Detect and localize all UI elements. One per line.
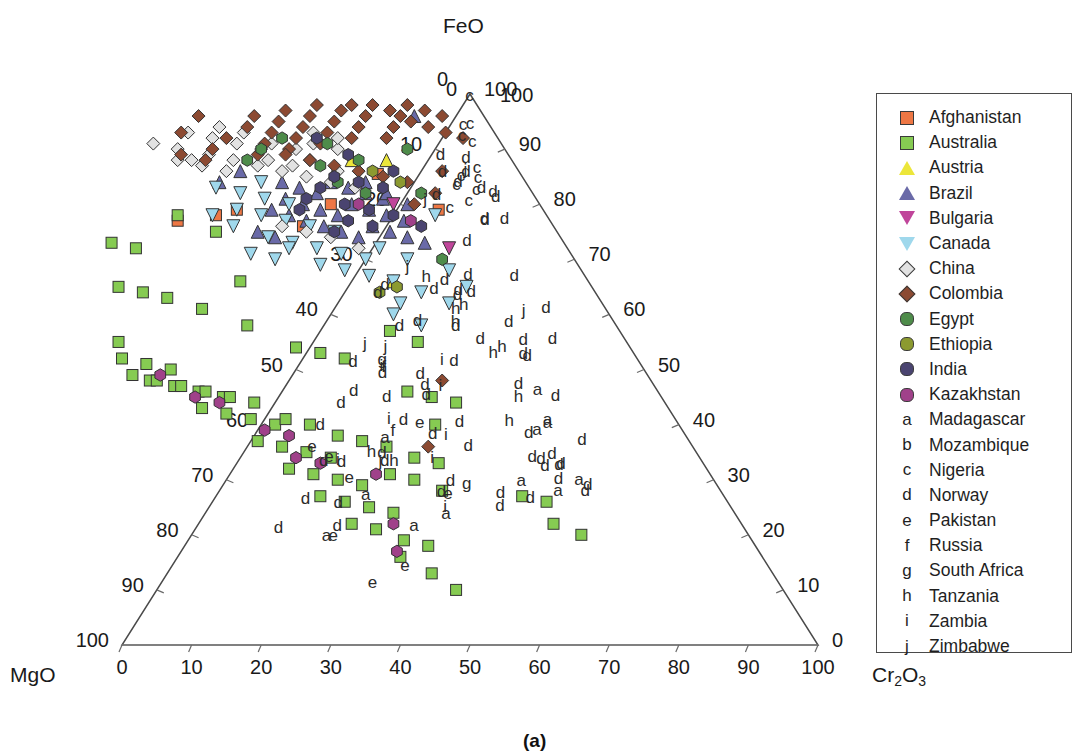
- letter-marker-d: d: [536, 449, 545, 468]
- point-square: [346, 518, 357, 529]
- letter-marker-j: j: [362, 334, 367, 353]
- legend-letter-code: e: [885, 511, 929, 531]
- point-diamond: [422, 121, 435, 134]
- bottom-tick-label: 60: [528, 656, 550, 678]
- legend-item-zimbabwe[interactable]: jZimbabwe: [877, 634, 1071, 659]
- letter-marker-h: h: [451, 312, 460, 331]
- legend-item-china[interactable]: China: [877, 256, 1071, 281]
- right-axis-label-cr: Cr: [872, 663, 894, 686]
- letter-marker-d: d: [382, 387, 391, 406]
- letter-marker-i: i: [380, 356, 384, 375]
- point-triangle-up: [293, 181, 306, 194]
- legend-item-south-africa[interactable]: gSouth Africa: [877, 558, 1071, 583]
- letter-marker-j: j: [405, 257, 410, 276]
- letter-marker-i: i: [439, 376, 443, 395]
- letter-marker-c: c: [466, 114, 475, 133]
- point-hexagon: [395, 176, 406, 188]
- point-triangle-up: [380, 154, 393, 167]
- point-square: [315, 347, 326, 358]
- point-hexagon: [256, 143, 267, 155]
- legend-item-egypt[interactable]: Egypt: [877, 307, 1071, 332]
- right-tick-label: 20: [762, 519, 784, 541]
- point-square: [270, 419, 281, 430]
- legend-marker-square: [900, 136, 914, 150]
- bottom-tick: [745, 645, 748, 652]
- legend-item-bulgaria[interactable]: Bulgaria: [877, 206, 1071, 231]
- letter-marker-c: c: [465, 86, 474, 105]
- legend-item-pakistan[interactable]: ePakistan: [877, 508, 1071, 533]
- legend-item-colombia[interactable]: Colombia: [877, 281, 1071, 306]
- legend-swatch: [885, 362, 929, 376]
- letter-marker-d: d: [440, 270, 449, 289]
- legend-item-ethiopia[interactable]: Ethiopia: [877, 332, 1071, 357]
- point-square: [291, 342, 302, 353]
- letter-marker-d: d: [463, 265, 472, 284]
- legend-item-label: Tanzania: [929, 586, 999, 607]
- point-hexagon: [190, 391, 201, 403]
- right-tick: [498, 149, 505, 152]
- right-tick: [672, 425, 679, 428]
- right-axis-label: Cr2O3: [872, 663, 926, 689]
- point-diamond: [265, 126, 278, 139]
- right-tick-label: 0: [832, 629, 843, 651]
- legend-item-russia[interactable]: fRussia: [877, 533, 1071, 558]
- letter-marker-d: d: [548, 329, 557, 348]
- letter-marker-i: i: [430, 448, 434, 467]
- legend-item-australia[interactable]: Australia: [877, 130, 1071, 155]
- legend-item-mozambique[interactable]: bMozambique: [877, 432, 1071, 457]
- legend-item-nigeria[interactable]: cNigeria: [877, 458, 1071, 483]
- point-triangle-up: [418, 236, 431, 249]
- letter-marker-a: a: [380, 428, 390, 447]
- letter-marker-d: d: [413, 311, 422, 330]
- point-square: [308, 469, 319, 480]
- letter-marker-d: d: [504, 312, 513, 331]
- legend-swatch: [885, 186, 929, 200]
- bottom-tick: [676, 645, 679, 652]
- point-triangle-down: [373, 242, 386, 255]
- point-diamond: [328, 115, 341, 128]
- point-square: [304, 419, 315, 430]
- legend-item-label: Mozambique: [929, 435, 1029, 456]
- legend-item-austria[interactable]: Austria: [877, 155, 1071, 180]
- letter-marker-h: h: [497, 337, 506, 356]
- legend-item-norway[interactable]: dNorway: [877, 483, 1071, 508]
- legend-item-canada[interactable]: Canada: [877, 231, 1071, 256]
- point-diamond: [345, 132, 358, 145]
- legend-item-madagascar[interactable]: aMadagascar: [877, 407, 1071, 432]
- point-triangle-down: [415, 286, 428, 299]
- point-triangle-up: [234, 165, 247, 178]
- point-square: [332, 430, 343, 441]
- point-hexagon: [315, 182, 326, 194]
- legend-item-tanzania[interactable]: hTanzania: [877, 584, 1071, 609]
- legend-letter-code: c: [885, 460, 929, 480]
- point-square: [249, 397, 260, 408]
- legend-item-india[interactable]: India: [877, 357, 1071, 382]
- bottom-tick: [258, 645, 261, 652]
- point-hexagon: [284, 430, 295, 442]
- letter-marker-j: j: [422, 190, 427, 209]
- point-hexagon: [294, 204, 305, 216]
- legend-item-afghanistan[interactable]: Afghanistan: [877, 105, 1071, 130]
- legend-item-zambia[interactable]: iZambia: [877, 609, 1071, 634]
- legend-item-label: Ethiopia: [929, 334, 992, 355]
- point-square: [176, 381, 187, 392]
- legend-swatch: [885, 312, 929, 326]
- letter-marker-i: i: [444, 425, 448, 444]
- point-hexagon: [315, 160, 326, 172]
- point-square: [433, 458, 444, 469]
- letter-marker-a: a: [532, 420, 542, 439]
- legend-item-kazakhstan[interactable]: Kazakhstan: [877, 382, 1071, 407]
- legend-marker-triangle-down: [899, 211, 915, 225]
- letter-marker-d: d: [315, 415, 324, 434]
- legend-marker-hexagon: [900, 337, 914, 351]
- legend-item-brazil[interactable]: Brazil: [877, 181, 1071, 206]
- legend-item-label: Bulgaria: [929, 208, 993, 229]
- bottom-tick: [119, 645, 122, 652]
- legend-swatch: [885, 337, 929, 351]
- apex-right-value: 100: [500, 84, 533, 106]
- point-hexagon: [416, 220, 427, 232]
- letter-marker-d: d: [395, 316, 404, 335]
- point-square: [127, 370, 138, 381]
- legend-marker-diamond: [899, 285, 916, 302]
- right-tick-label: 50: [658, 354, 680, 376]
